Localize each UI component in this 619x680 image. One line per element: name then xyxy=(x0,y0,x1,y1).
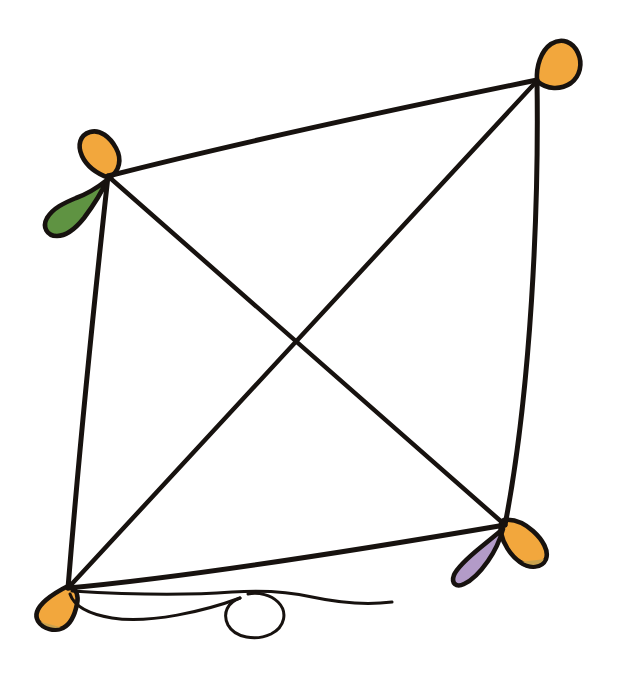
kite-drawing-canvas xyxy=(0,0,619,680)
kite-illustration: Kite diamond kite with corner tassels an… xyxy=(0,0,619,680)
